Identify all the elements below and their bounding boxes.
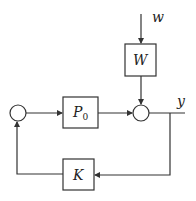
feedback-to-K-line (95, 113, 170, 175)
summing-junction-left (10, 105, 26, 121)
block-diagram: w W P0 y K (0, 0, 196, 201)
block-K: K (63, 159, 94, 190)
block-P0: P0 (63, 97, 98, 128)
summing-junction-right (133, 105, 149, 121)
block-W: W (125, 44, 156, 76)
block-K-label: K (72, 167, 85, 183)
output-y-label: y (176, 93, 186, 109)
block-W-label: W (133, 52, 149, 68)
K-to-sum-line (17, 122, 63, 174)
input-w-label: w (152, 9, 164, 25)
diagram-canvas: w W P0 y K (0, 0, 196, 201)
